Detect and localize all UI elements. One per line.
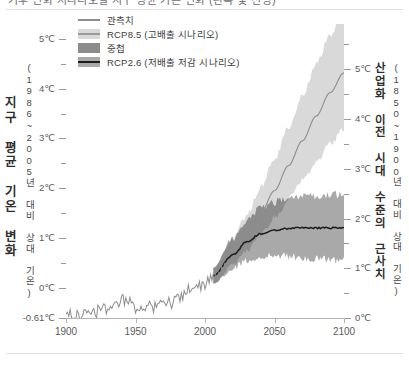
tick-label: 0℃ xyxy=(39,282,55,293)
climate-projection-figure: 기후 변화 시나리오별 지구 평균 기온 변화 (관측 및 전망) 관측치 RC… xyxy=(0,0,409,366)
tick-mark xyxy=(344,69,351,70)
tick-mark xyxy=(344,44,349,45)
x-axis: 19001950200020502100 xyxy=(66,318,344,348)
tick-label: 1950 xyxy=(124,326,146,337)
tick-label: 4℃ xyxy=(39,83,55,94)
tick-label: 3℃ xyxy=(355,163,371,174)
tick-mark xyxy=(59,318,66,319)
right-axis-ticks: 5℃4℃3℃2℃1℃0℃ xyxy=(344,24,390,318)
tick-label: 2100 xyxy=(333,326,355,337)
plot-canvas xyxy=(66,24,344,318)
tick-label: 4℃ xyxy=(355,113,371,124)
figure-caption: 기후 변화 시나리오별 지구 평균 기온 변화 (관측 및 전망) xyxy=(8,0,276,7)
tick-mark xyxy=(344,268,351,269)
tick-mark xyxy=(59,288,66,289)
tick-label: 5℃ xyxy=(39,33,55,44)
tick-mark xyxy=(59,39,66,40)
tick-mark xyxy=(59,89,66,90)
plot-area xyxy=(66,24,344,318)
tick-label: 2℃ xyxy=(39,182,55,193)
tick-label: 2℃ xyxy=(355,213,371,224)
tick-mark xyxy=(344,243,349,244)
right-axis-subtitle: (1850~1900년 대비 상대 기온) xyxy=(391,62,401,297)
tick-label: 2000 xyxy=(194,326,216,337)
tick-mark xyxy=(59,188,66,189)
tick-mark xyxy=(344,318,345,323)
tick-label: 1℃ xyxy=(355,262,371,273)
tick-mark xyxy=(344,293,349,294)
tick-label: 1900 xyxy=(55,326,77,337)
tick-label: 2050 xyxy=(263,326,285,337)
caption-strip: 기후 변화 시나리오별 지구 평균 기온 변화 (관측 및 전망) xyxy=(0,0,409,9)
tick-label: 1℃ xyxy=(39,232,55,243)
tick-mark xyxy=(66,318,67,323)
tick-label: 5℃ xyxy=(355,63,371,74)
tick-label: -0.61℃ xyxy=(23,312,55,323)
tick-mark xyxy=(344,318,351,319)
tick-mark xyxy=(275,318,276,323)
tick-mark xyxy=(344,144,349,145)
tick-mark xyxy=(205,318,206,323)
tick-mark xyxy=(59,238,66,239)
tick-mark xyxy=(344,94,349,95)
tick-label: 3℃ xyxy=(39,132,55,143)
tick-mark xyxy=(344,119,351,120)
tick-mark xyxy=(344,194,349,195)
tick-mark xyxy=(59,138,66,139)
left-axis-ticks: 5℃4℃3℃2℃1℃0℃-0.61℃ xyxy=(12,24,66,318)
tick-mark xyxy=(136,318,137,323)
tick-mark xyxy=(344,169,351,170)
tick-mark xyxy=(344,219,351,220)
tick-label: 0℃ xyxy=(355,312,371,323)
footer-divider xyxy=(6,353,403,354)
caption-divider xyxy=(6,9,403,10)
